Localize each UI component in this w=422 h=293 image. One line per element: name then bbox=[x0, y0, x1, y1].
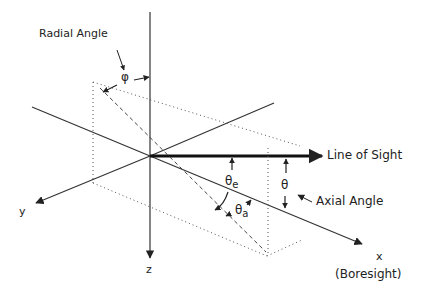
radial-angle-pointer bbox=[117, 50, 124, 70]
projection-box bbox=[93, 82, 302, 256]
phi-arrow-right bbox=[134, 77, 149, 80]
x-axis-label: x bbox=[376, 250, 383, 263]
diagram-graphic bbox=[0, 0, 422, 293]
diagram-canvas: Radial Angle φ Line of Sight θe θa θ Axi… bbox=[0, 0, 422, 293]
plane-line bbox=[32, 107, 150, 156]
axial-angle-label: Axial Angle bbox=[316, 194, 383, 208]
boresight-label: (Boresight) bbox=[335, 267, 402, 281]
y-axis bbox=[36, 156, 150, 203]
line-of-sight-label: Line of Sight bbox=[327, 148, 402, 162]
radial-angle-label: Radial Angle bbox=[39, 27, 108, 40]
z-axis-label: z bbox=[146, 263, 152, 276]
theta-e-label: θe bbox=[225, 174, 239, 190]
axial-angle-pointer bbox=[298, 195, 312, 202]
theta-e-arrow-down bbox=[215, 192, 228, 210]
plane-line-right bbox=[150, 103, 274, 156]
y-axis-label: y bbox=[19, 205, 26, 218]
phi-label: φ bbox=[121, 70, 129, 84]
theta-a-label: θa bbox=[235, 203, 248, 219]
theta-a-arrow-left bbox=[226, 214, 230, 216]
theta-label: θ bbox=[281, 178, 288, 192]
